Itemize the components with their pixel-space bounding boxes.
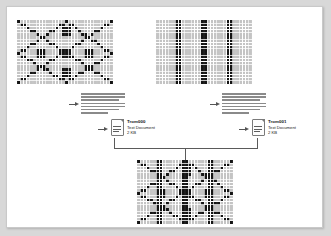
file-info-right: Trom001 Text Document 2 KB [268, 119, 296, 135]
text-line [81, 109, 119, 111]
pattern-grid-source-b [156, 20, 252, 84]
text-line [81, 99, 119, 101]
text-line [81, 106, 125, 108]
arrow-pattern-b-to-text [210, 102, 220, 106]
file-info-left: Trom000 Text Document 2 KB [127, 119, 155, 135]
text-document-icon [252, 119, 265, 136]
text-line [222, 96, 266, 98]
pattern-grid-source-a [17, 20, 113, 84]
file-item-right[interactable]: Trom001 Text Document 2 KB [252, 119, 296, 136]
arrow-pattern-a-to-text [69, 102, 79, 106]
text-line [222, 103, 266, 105]
text-line [222, 112, 249, 114]
file-type-left: Text Document [127, 125, 155, 130]
page-sheet: Trom000 Text Document 2 KB Trom001 Text … [6, 6, 323, 228]
text-preview-left [80, 92, 126, 116]
text-line [222, 99, 260, 101]
text-line [222, 109, 260, 111]
file-size-right: 2 KB [268, 130, 296, 135]
text-line [222, 106, 266, 108]
file-size-left: 2 KB [127, 130, 155, 135]
text-line [81, 93, 125, 95]
file-item-left[interactable]: Trom000 Text Document 2 KB [111, 119, 155, 136]
text-line [81, 112, 108, 114]
text-line [81, 103, 125, 105]
text-document-icon [111, 119, 124, 136]
file-type-right: Text Document [268, 125, 296, 130]
text-line [81, 96, 125, 98]
arrow-text-to-file-left [98, 127, 108, 131]
text-preview-right [221, 92, 267, 116]
pattern-grid-result [137, 160, 233, 224]
arrow-text-to-file-right [239, 127, 249, 131]
text-line [222, 93, 266, 95]
